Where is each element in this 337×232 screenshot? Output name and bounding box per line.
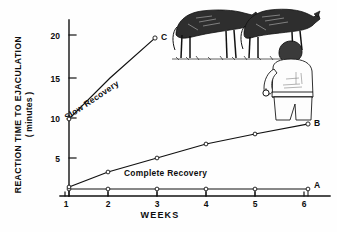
marker-A-w2 <box>106 187 110 191</box>
marker-A-w6 <box>306 187 310 191</box>
marker-B-w4 <box>204 142 208 146</box>
marker-C-w3 <box>153 36 157 40</box>
bulls-and-observer-illustration <box>172 9 320 120</box>
marker-B-w1 <box>67 185 71 189</box>
figure-panel: REACTION TIME TO EJACULATION ( minutes )… <box>0 0 337 232</box>
marker-B-w5 <box>253 132 257 136</box>
series-B-line <box>69 124 308 187</box>
series-A-risers <box>69 189 308 196</box>
marker-C-w1 <box>67 117 71 121</box>
marker-B-w3 <box>155 156 159 160</box>
series-C-line <box>69 38 155 119</box>
marker-A-w5 <box>253 187 257 191</box>
observer-person-icon <box>263 41 313 120</box>
marker-B-w6 <box>306 122 310 126</box>
marker-B-w2 <box>106 170 110 174</box>
marker-A-w3 <box>155 187 159 191</box>
plot-area <box>0 0 337 232</box>
marker-A-w4 <box>204 187 208 191</box>
